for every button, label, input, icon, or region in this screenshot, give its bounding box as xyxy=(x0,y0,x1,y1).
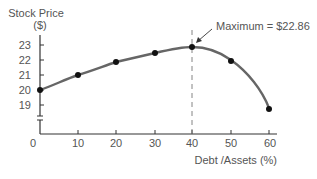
x-tick-label: 50 xyxy=(225,137,237,149)
annotation-text: Maximum = $22.86 xyxy=(216,20,310,32)
x-tick-label: 0 xyxy=(30,137,36,149)
x-tick-label: 30 xyxy=(149,137,161,149)
y-axis-label-line1: Stock Price xyxy=(8,7,64,19)
y-tick-label: 19 xyxy=(19,99,31,111)
stock-price-curve xyxy=(40,47,269,108)
data-point xyxy=(37,87,43,93)
x-axis-label: Debt /Assets (%) xyxy=(194,154,277,166)
y-tick-label: 21 xyxy=(19,69,31,81)
y-tick-label: 23 xyxy=(19,39,31,51)
y-tick-label: 22 xyxy=(19,54,31,66)
data-point xyxy=(75,72,81,78)
x-tick-labels: 0 10 20 30 40 50 60 xyxy=(30,137,276,149)
x-tick-label: 40 xyxy=(186,137,198,149)
y-tick-label: 20 xyxy=(19,84,31,96)
x-tick-label: 20 xyxy=(110,137,122,149)
data-point xyxy=(152,50,158,56)
data-point xyxy=(113,59,119,65)
x-tick-label: 10 xyxy=(72,137,84,149)
x-axis xyxy=(40,130,277,134)
data-point-maximum xyxy=(189,44,195,50)
x-tick-label: 60 xyxy=(264,137,276,149)
data-point xyxy=(266,106,272,112)
stock-price-chart: Stock Price ($) 23 22 21 20 19 0 10 20 3… xyxy=(0,0,317,179)
y-axis xyxy=(37,35,44,134)
data-point xyxy=(228,58,234,64)
maximum-annotation: Maximum = $22.86 xyxy=(196,20,310,43)
y-tick-labels: 23 22 21 20 19 xyxy=(19,39,31,111)
y-axis-label-line2: ($) xyxy=(33,19,46,31)
